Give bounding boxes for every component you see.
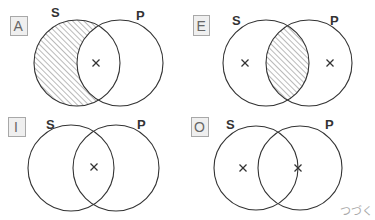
- label-s: S: [232, 13, 241, 28]
- cross-mark-icon: [240, 165, 247, 172]
- label-p: P: [137, 117, 146, 132]
- cross-mark-icon: [242, 60, 249, 67]
- circle-p: [258, 126, 342, 210]
- tag-a: A: [14, 18, 24, 34]
- label-s: S: [226, 117, 235, 132]
- panel-i: I S P: [9, 117, 160, 211]
- tag-e: E: [197, 18, 206, 34]
- tag-i: I: [14, 119, 18, 135]
- panel-a: A S P: [11, 5, 164, 106]
- venn-diagrams: A S P E S P I S P: [0, 0, 375, 220]
- cross-mark-icon: [91, 164, 98, 171]
- label-s: S: [46, 117, 55, 132]
- continue-label: つづく: [340, 202, 373, 218]
- label-p: P: [330, 13, 339, 28]
- label-s: S: [51, 5, 60, 20]
- circle-s: [28, 125, 114, 211]
- label-p: P: [325, 117, 334, 132]
- panel-e: E S P: [194, 13, 353, 106]
- panel-o: O S P: [192, 117, 343, 210]
- circle-s: [214, 126, 298, 210]
- label-p: P: [136, 8, 145, 23]
- circle-p: [73, 125, 159, 211]
- cross-mark-icon: [327, 60, 334, 67]
- tag-o: O: [194, 119, 205, 135]
